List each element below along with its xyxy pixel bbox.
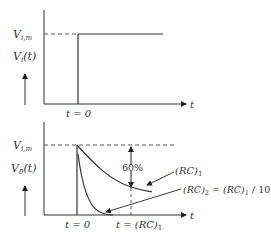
rc2-pointer-arrow: [106, 189, 181, 212]
rc1-pointer-arrow: [147, 172, 174, 185]
bottom-t-axis-label: t: [190, 210, 195, 221]
bottom-t0-label: t = 0: [65, 219, 91, 230]
bottom-plot: 60% (RC)1 (RC)2 = (RC)1 / 10 Vi,m V0(t) …: [11, 122, 270, 232]
bottom-trc1-label: t = (RC)1: [116, 219, 162, 232]
top-t0-label: t = 0: [66, 108, 92, 119]
rc1-curve-label: (RC)1: [175, 165, 202, 178]
sixty-percent-label: 60%: [122, 162, 143, 173]
rc-response-diagram: Vi,m Vi(t) t = 0 t 60% (RC)1 (RC)2 = (RC…: [0, 0, 271, 245]
bottom-y-axis-label: V0(t): [11, 162, 36, 176]
top-vim-label: Vi,m: [13, 28, 32, 42]
top-plot: Vi,m Vi(t) t = 0 t: [13, 10, 195, 119]
top-t-axis-label: t: [190, 99, 195, 110]
bottom-vim-label: Vi,m: [13, 139, 32, 153]
top-y-axis-label: Vi(t): [13, 50, 36, 64]
rc2-curve-label: (RC)2 = (RC)1 / 10: [183, 184, 270, 197]
rc2-decay-curve: [78, 154, 113, 215]
